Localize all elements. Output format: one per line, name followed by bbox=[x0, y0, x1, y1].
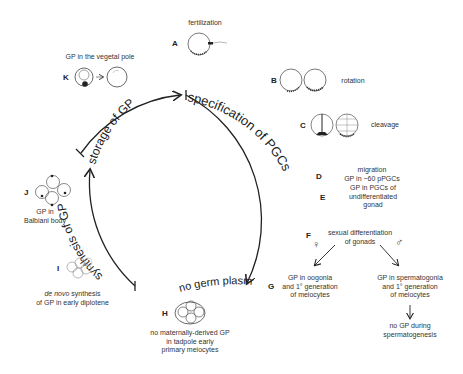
svg-text:storage of GP: storage of GP bbox=[84, 96, 137, 166]
stage-letter-g: G bbox=[268, 282, 274, 291]
label-fertilization: fertilization bbox=[180, 19, 230, 28]
vegetal-pole-egg-icon bbox=[75, 67, 127, 87]
label-undifferentiated-gonad: GP in PGCs of undifferentiated gonad bbox=[328, 184, 418, 210]
stage-letter-e: E bbox=[320, 193, 325, 202]
label-rotation: rotation bbox=[333, 77, 373, 86]
stage-letter-k: K bbox=[63, 73, 69, 82]
egg-fertilization-icon bbox=[188, 33, 227, 55]
stage-letter-h: H bbox=[162, 309, 168, 318]
stage-letter-b: B bbox=[271, 76, 277, 85]
stage-letter-j: J bbox=[24, 188, 28, 197]
egg-rotation-icon bbox=[280, 69, 326, 91]
label-tadpole-meiocytes: no maternally-derived GP in tadpole earl… bbox=[140, 329, 240, 355]
label-oogonia: GP in oogonia and 1° generation of meioc… bbox=[275, 274, 345, 300]
label-spermatogonia: GP in spermatogonia and 1° generation of… bbox=[365, 274, 455, 300]
svg-text:no germ plasm: no germ plasm bbox=[177, 274, 252, 294]
arc-label-no-germ-plasm: no germ plasm bbox=[177, 274, 252, 294]
label-cleavage: cleavage bbox=[367, 121, 403, 130]
label-sexual-differentiation: sexual differentiation of gonads bbox=[315, 229, 405, 246]
stage-letter-f: F bbox=[306, 231, 311, 240]
arc-label-specification: specification of PGCs bbox=[186, 89, 294, 174]
stage-letter-c: C bbox=[300, 121, 306, 130]
stage-letter-d: D bbox=[316, 172, 322, 181]
egg-cleavage-icon bbox=[311, 114, 358, 137]
balbiani-body-icon bbox=[36, 175, 71, 207]
male-symbol: ♂ bbox=[395, 236, 403, 248]
arc-label-storage: storage of GP bbox=[84, 96, 137, 166]
female-symbol: ♀ bbox=[312, 238, 320, 250]
stage-letter-a: A bbox=[172, 39, 178, 48]
label-de-novo-synthesis: de novo synthesis of GP in early diplote… bbox=[25, 290, 120, 307]
meiocyte-cluster-icon bbox=[175, 301, 205, 324]
arrow-male bbox=[380, 245, 398, 265]
label-migration: migration GP in ~60 pPGCs bbox=[322, 166, 422, 183]
svg-text:specification of PGCs: specification of PGCs bbox=[186, 89, 294, 174]
label-no-gp-spermatogenesis: no GP during spermatogenesis bbox=[370, 322, 450, 339]
label-balbiani-body: GP in Balbiani body bbox=[15, 208, 75, 225]
stage-letter-i: I bbox=[57, 264, 59, 273]
label-vegetal-pole: GP in the vegetal pole bbox=[55, 53, 145, 62]
